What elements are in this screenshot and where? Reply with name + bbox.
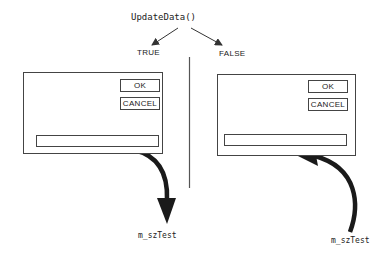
edit-field[interactable]: [224, 134, 347, 146]
true-dialog: OK CANCEL: [23, 72, 163, 154]
ok-button[interactable]: OK: [308, 80, 348, 93]
edit-field[interactable]: [36, 135, 159, 147]
false-dialog: OK CANCEL: [217, 74, 356, 156]
false-variable-label: m_szTest: [331, 236, 370, 245]
true-branch-label: TRUE: [137, 48, 160, 57]
cancel-button[interactable]: CANCEL: [120, 97, 160, 110]
data-to-variable-arrow: [134, 150, 167, 200]
true-branch-arrow: [152, 28, 178, 45]
true-variable-label: m_szTest: [138, 231, 177, 240]
false-branch-arrow: [191, 28, 222, 45]
ok-button[interactable]: OK: [120, 79, 160, 92]
function-call-label: UpdateData(): [131, 12, 196, 22]
variable-to-data-arrow: [315, 156, 355, 232]
false-branch-label: FALSE: [219, 49, 245, 58]
cancel-button[interactable]: CANCEL: [308, 98, 348, 111]
